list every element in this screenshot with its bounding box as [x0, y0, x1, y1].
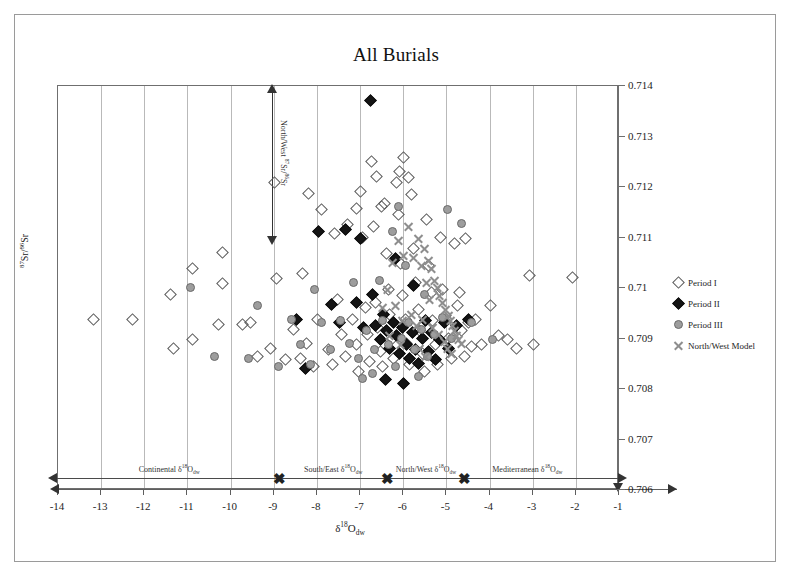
y-axis-tick-label: 0.712	[628, 180, 653, 192]
x-axis-tick	[186, 489, 187, 495]
gridline-vertical	[101, 86, 102, 488]
x-axis-tick	[402, 489, 403, 495]
x-axis-tick	[230, 489, 231, 495]
y-axis-tick	[618, 388, 625, 389]
legend-item-label: Period II	[688, 299, 720, 309]
y-axis-tick-label: 0.706	[628, 483, 653, 495]
x-axis-tick-label: -6	[398, 500, 407, 512]
legend-marker-icon	[672, 339, 686, 353]
x-axis-tick-label: -1	[613, 500, 622, 512]
gridline-vertical	[144, 86, 145, 488]
gridline-vertical	[576, 86, 577, 488]
region-label: Mediterranean δ18Odw	[492, 463, 562, 475]
y-axis-tick	[618, 338, 625, 339]
x-axis-tick-label: -3	[527, 500, 536, 512]
x-axis-tick-label: -9	[268, 500, 277, 512]
region-span-line	[387, 478, 465, 479]
legend-item-label: Period I	[688, 278, 717, 288]
x-axis-tick-label: -14	[50, 500, 65, 512]
y-axis-tick	[618, 439, 625, 440]
x-axis-tick	[575, 489, 576, 495]
legend-marker-icon	[672, 297, 686, 311]
region-label: North/West δ18Odw	[396, 463, 456, 475]
x-axis-spine	[57, 489, 677, 490]
region-span-line	[57, 478, 279, 479]
region-label: Continental δ18Odw	[139, 463, 200, 475]
page-title: All Burials	[0, 44, 792, 66]
region-divider-icon: ✖	[272, 471, 286, 486]
gridline-vertical	[231, 86, 232, 488]
region-divider-icon: ✖	[458, 471, 472, 486]
region-divider-icon: ✖	[380, 471, 394, 486]
x-axis-tick-label: -5	[441, 500, 450, 512]
x-axis-tick	[143, 489, 144, 495]
region-arrow-left-icon	[48, 473, 57, 483]
y-axis-tick	[618, 237, 625, 238]
x-axis-tick-label: -2	[570, 500, 579, 512]
filled-diamond-icon	[672, 297, 685, 310]
legend-item-4[interactable]: North/West Model	[672, 335, 784, 356]
y-axis-tick-label: 0.711	[628, 231, 652, 243]
x-axis-tick-label: -10	[222, 500, 237, 512]
y-axis-tick-label: 0.709	[628, 332, 653, 344]
y-axis-tick-label: 0.71	[628, 281, 647, 293]
y-axis-tick-label: 0.713	[628, 130, 653, 142]
plot-area	[57, 85, 618, 489]
x-axis-tick-label: -8	[311, 500, 320, 512]
gridline-vertical	[490, 86, 491, 488]
x-axis-tick	[359, 489, 360, 495]
gridline-vertical	[317, 86, 318, 488]
open-diamond-icon	[672, 276, 685, 289]
sr-range-annotation-label: North/West 87Sr/86Sr	[279, 120, 290, 186]
x-axis-tick	[100, 489, 101, 495]
region-span-line	[465, 478, 618, 479]
legend: Period IPeriod IIPeriod IIINorth/West Mo…	[672, 272, 784, 356]
x-axis-tick	[316, 489, 317, 495]
legend-item-2[interactable]: Period II	[672, 293, 784, 314]
legend-marker-icon	[672, 318, 686, 332]
y-axis-tick-label: 0.707	[628, 433, 653, 445]
x-axis-tick	[489, 489, 490, 495]
legend-item-1[interactable]: Period I	[672, 272, 784, 293]
y-axis-tick	[618, 136, 625, 137]
y-axis-tick-label: 0.708	[628, 382, 653, 394]
y-axis-tick	[618, 85, 625, 86]
gridline-vertical	[446, 86, 447, 488]
sr-range-annotation-line	[272, 92, 273, 238]
gridline-vertical	[533, 86, 534, 488]
gridline-vertical	[360, 86, 361, 488]
x-axis-tick	[445, 489, 446, 495]
legend-item-3[interactable]: Period III	[672, 314, 784, 335]
x-axis-tick	[273, 489, 274, 495]
figure-root: All Burials 87Sr/86Sr δ18Odw North/West …	[0, 0, 792, 578]
x-axis-tick-label: -11	[179, 500, 193, 512]
legend-item-label: North/West Model	[688, 341, 755, 351]
x-axis-arrow-left-icon	[50, 484, 59, 494]
legend-marker-icon	[672, 276, 686, 290]
region-arrow-right-icon	[618, 473, 627, 483]
region-label: South/East δ18Odw	[304, 463, 362, 475]
gridline-vertical	[274, 86, 275, 488]
gridline-vertical	[187, 86, 188, 488]
sr-range-arrow-down-icon	[267, 236, 277, 245]
x-axis-tick-label: -4	[484, 500, 493, 512]
sr-range-arrow-up-icon	[267, 84, 277, 93]
gray-circle-icon	[674, 320, 683, 329]
x-axis-title: δ18Odw	[0, 520, 700, 537]
y-axis-tick	[618, 489, 625, 490]
legend-item-label: Period III	[688, 320, 723, 330]
x-axis-arrow-right-icon	[668, 484, 677, 494]
x-axis-tick	[532, 489, 533, 495]
region-span-line	[279, 478, 387, 479]
x-axis-tick-label: -12	[136, 500, 151, 512]
x-axis-tick-label: -13	[93, 500, 108, 512]
y-axis-tick-label: 0.714	[628, 79, 653, 91]
y-axis-title: 87Sr/86Sr	[18, 234, 30, 268]
gridline-vertical	[403, 86, 404, 488]
y-axis-tick	[618, 287, 625, 288]
y-axis-tick	[618, 186, 625, 187]
x-cross-icon	[673, 340, 684, 351]
x-axis-tick-label: -7	[354, 500, 363, 512]
